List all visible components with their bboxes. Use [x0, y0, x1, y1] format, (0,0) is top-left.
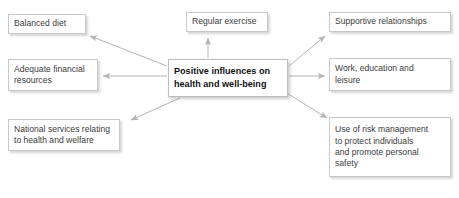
node-adequate-financial-resources-label: Adequate financial resources: [14, 64, 92, 87]
influences-diagram: Balanced diet Regular exercise Supportiv…: [0, 0, 459, 198]
node-supportive-relationships[interactable]: Supportive relationships: [329, 12, 451, 32]
node-balanced-diet[interactable]: Balanced diet: [8, 14, 86, 34]
node-work-education-leisure-label: Work, education and leisure: [335, 63, 445, 86]
node-national-services-label: National services relating to health and…: [14, 124, 114, 147]
node-center-positive-influences[interactable]: Positive influences on health and well-b…: [168, 59, 288, 97]
arrow-to-supportive: [289, 36, 325, 66]
arrow-to-balanced-diet: [90, 36, 167, 66]
node-work-education-leisure[interactable]: Work, education and leisure: [329, 58, 451, 91]
node-adequate-financial-resources[interactable]: Adequate financial resources: [8, 59, 98, 91]
node-national-services[interactable]: National services relating to health and…: [8, 119, 120, 151]
node-supportive-relationships-label: Supportive relationships: [335, 16, 445, 27]
arrow-to-risk-management: [285, 92, 327, 118]
node-risk-management-label: Use of risk management to protect indivi…: [335, 124, 445, 170]
node-regular-exercise-label: Regular exercise: [192, 16, 262, 27]
node-risk-management[interactable]: Use of risk management to protect indivi…: [329, 117, 451, 177]
node-regular-exercise[interactable]: Regular exercise: [186, 12, 268, 32]
node-balanced-diet-label: Balanced diet: [14, 18, 80, 29]
arrow-to-national-services: [131, 98, 180, 120]
node-center-label: Positive influences on health and well-b…: [174, 65, 282, 90]
